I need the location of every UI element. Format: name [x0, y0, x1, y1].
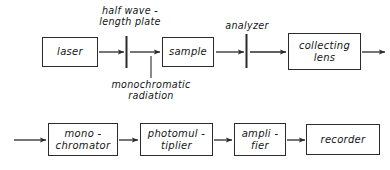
- node-sample-label: sample: [163, 46, 213, 58]
- node-laser-label: laser: [43, 46, 97, 58]
- node-amplifier[interactable]: ampli - fier: [234, 123, 286, 156]
- node-collecting-lens-label: collecting lens: [289, 40, 360, 63]
- node-monochromator[interactable]: mono - chromator: [48, 123, 118, 156]
- node-monochromator-label: mono - chromator: [49, 128, 117, 151]
- label-half-wave-plate: half wave - length plate: [78, 5, 182, 27]
- node-sample[interactable]: sample: [162, 37, 214, 67]
- node-recorder-label: recorder: [307, 134, 379, 146]
- node-collecting-lens[interactable]: collecting lens: [288, 33, 361, 70]
- label-analyzer: analyzer: [212, 20, 282, 31]
- diagram-canvas: laser sample collecting lens half wave -…: [0, 0, 390, 170]
- node-photomultiplier-label: photomul - tiplier: [141, 128, 212, 151]
- label-monochromatic-radiation: monochromatic radiation: [91, 79, 211, 101]
- node-amplifier-label: ampli - fier: [235, 128, 285, 151]
- node-laser[interactable]: laser: [42, 37, 98, 67]
- node-photomultiplier[interactable]: photomul - tiplier: [140, 123, 213, 156]
- node-recorder[interactable]: recorder: [306, 124, 380, 155]
